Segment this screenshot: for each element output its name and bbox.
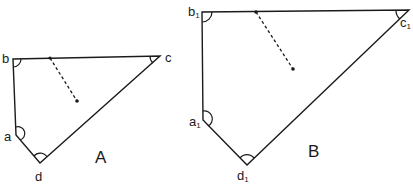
angle-arc-d [34,153,47,157]
vertex-label-a: a [4,129,12,144]
interior-point-a [75,99,79,103]
dashed-line-b [256,12,293,69]
quadrilateral-b [202,10,409,165]
angle-arc-d1 [240,155,254,158]
vertex-label-b1: b1 [188,4,200,20]
angle-arc-b1 [202,12,212,22]
figure-label-a: A [95,148,107,167]
point-on-edge-a [48,56,51,59]
vertex-label-b: b [2,51,9,66]
interior-point-b [291,67,295,71]
figure-a: b c a d A [2,50,172,184]
angle-arc-b [13,59,21,67]
angle-arc-a1 [203,111,212,126]
vertex-label-c1: c1 [400,15,412,31]
vertex-label-c: c [165,50,172,65]
vertex-label-d1: d1 [237,168,249,184]
diagram-canvas: b c a d A b1 c1 a1 d1 B [0,0,413,185]
dashed-line-a [50,58,77,101]
point-on-edge-b [254,10,258,14]
figure-b: b1 c1 a1 d1 B [188,4,412,184]
quadrilateral-a [13,56,160,163]
figure-label-b: B [308,142,319,161]
angle-arc-a [16,127,25,140]
vertex-label-d: d [35,169,42,184]
angle-arc-c [150,56,153,63]
vertex-label-a1: a1 [189,114,201,130]
